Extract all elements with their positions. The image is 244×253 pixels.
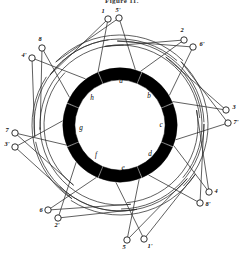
figure-root: Figure 11. abcdefgh 15'26'37'48'51'62'73… bbox=[0, 0, 244, 253]
terminal-8[interactable] bbox=[39, 45, 45, 51]
terminal-label-3p: 3' bbox=[4, 140, 10, 147]
lead-line-4p bbox=[32, 58, 86, 79]
coil-tie-7 bbox=[15, 133, 74, 185]
terminal-1p[interactable] bbox=[141, 236, 147, 242]
terminal-1[interactable] bbox=[105, 16, 111, 22]
terminal-4p[interactable] bbox=[29, 55, 35, 61]
terminal-label-2p: 2' bbox=[54, 221, 60, 228]
terminal-5p[interactable] bbox=[116, 15, 122, 21]
pole-segment-g bbox=[63, 104, 78, 147]
pole-segment-e bbox=[99, 167, 142, 182]
terminal-label-6: 6 bbox=[39, 206, 43, 213]
terminal-8p[interactable] bbox=[197, 200, 203, 206]
coil-tie-2p bbox=[58, 209, 137, 218]
terminal-label-3: 3 bbox=[231, 103, 236, 110]
terminal-3p[interactable] bbox=[12, 144, 18, 150]
terminal-label-5: 5 bbox=[122, 243, 126, 250]
pole-segment-c bbox=[162, 104, 177, 147]
terminal-4[interactable] bbox=[206, 189, 212, 195]
terminal-6[interactable] bbox=[45, 207, 51, 213]
terminal-label-6p: 6' bbox=[200, 40, 205, 47]
coil-tie-1p bbox=[144, 174, 195, 239]
lead-line-3p bbox=[15, 121, 63, 147]
coil-tie-3p bbox=[15, 147, 72, 199]
terminal-3[interactable] bbox=[223, 107, 229, 113]
pole-label-g: g bbox=[79, 124, 83, 132]
coil-arc-5 bbox=[60, 179, 188, 211]
terminal-label-2: 2 bbox=[179, 26, 184, 33]
terminal-label-1p: 1' bbox=[148, 242, 153, 249]
terminal-label-7: 7 bbox=[5, 126, 9, 133]
terminal-7p[interactable] bbox=[225, 120, 231, 126]
terminal-label-4: 4 bbox=[213, 187, 217, 194]
terminal-6p[interactable] bbox=[190, 44, 196, 50]
terminal-7[interactable] bbox=[12, 130, 18, 136]
winding-diagram: abcdefgh 15'26'37'48'51'62'73'84' bbox=[0, 0, 244, 253]
pole-label-h: h bbox=[90, 94, 94, 102]
pole-label-d: d bbox=[148, 150, 152, 158]
terminal-label-4p: 4' bbox=[21, 51, 27, 58]
terminal-label-8: 8 bbox=[38, 35, 42, 42]
terminal-label-7p: 7' bbox=[234, 118, 239, 125]
terminal-label-8p: 8' bbox=[206, 200, 211, 207]
pole-label-a: a bbox=[119, 77, 123, 85]
terminal-2[interactable] bbox=[181, 37, 187, 43]
pole-label-b: b bbox=[147, 92, 151, 100]
figure-caption: Figure 11. bbox=[0, 0, 244, 5]
terminal-label-5p: 5' bbox=[116, 6, 121, 13]
coil-tie-4p bbox=[32, 58, 35, 137]
coil-tie-7p bbox=[181, 62, 228, 123]
terminal-label-1: 1 bbox=[101, 7, 104, 14]
lead-line-5p bbox=[119, 18, 135, 70]
